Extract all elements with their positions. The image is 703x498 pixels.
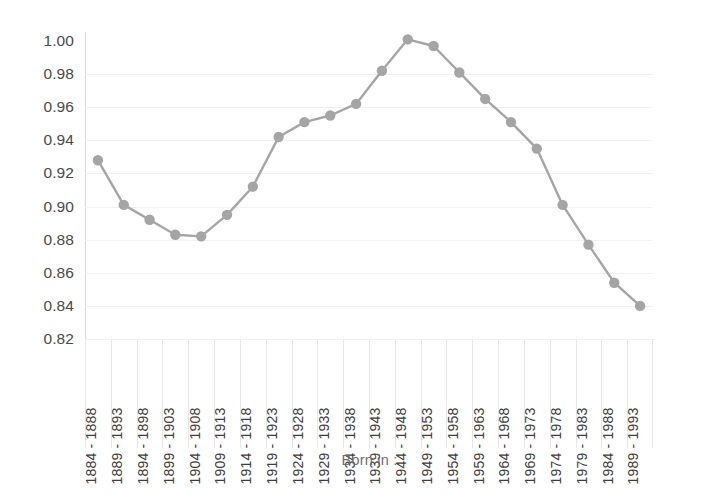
x-axis-tick-label: 1964 - 1968 bbox=[497, 408, 511, 485]
x-axis-category: 1924 - 1928 bbox=[292, 340, 318, 448]
x-axis-category: 1949 - 1953 bbox=[421, 340, 447, 448]
data-point-marker: 1959 - 1963: 0.965 bbox=[480, 94, 490, 104]
x-axis-tick-label: 1894 - 1898 bbox=[136, 408, 150, 485]
x-axis-title: Born in : bbox=[85, 452, 654, 468]
y-axis-tick-label: 0.88 bbox=[22, 232, 74, 248]
data-point-marker: 1894 - 1898: 0.892 bbox=[144, 215, 154, 225]
data-point-marker: 1964 - 1968: 0.951 bbox=[506, 117, 516, 127]
x-axis-tick-label: 1889 - 1893 bbox=[110, 408, 124, 485]
plot-area: 1884 - 1888: 0.9281889 - 1893: 0.9011894… bbox=[85, 41, 653, 339]
x-axis-tick-label: 1904 - 1908 bbox=[188, 408, 202, 485]
x-axis-tick-label: 1974 - 1978 bbox=[549, 408, 563, 485]
data-point-marker: 1944 - 1948: 1.001 bbox=[403, 34, 413, 44]
x-axis-category: 1979 - 1983 bbox=[576, 340, 602, 448]
y-axis-tick-label: 0.84 bbox=[22, 298, 74, 314]
y-axis-tick-label: 0.82 bbox=[22, 331, 74, 347]
data-point-marker: 1884 - 1888: 0.928 bbox=[93, 155, 103, 165]
x-axis-tick-label: 1934 - 1938 bbox=[343, 408, 357, 485]
x-axis-category: 1944 - 1948 bbox=[395, 340, 421, 448]
y-axis-tick-label: 0.98 bbox=[22, 66, 74, 82]
x-axis-category: 1934 - 1938 bbox=[343, 340, 369, 448]
x-axis-category: 1989 - 1993 bbox=[627, 340, 653, 448]
x-axis-category: 1954 - 1958 bbox=[446, 340, 472, 448]
x-axis-tick-label: 1929 - 1933 bbox=[317, 408, 331, 485]
x-axis-tick-label: 1984 - 1988 bbox=[601, 408, 615, 485]
data-point-marker: 1929 - 1933: 0.955 bbox=[325, 110, 335, 120]
data-point-marker: 1984 - 1988: 0.854 bbox=[609, 278, 619, 288]
x-axis-category: 1969 - 1973 bbox=[524, 340, 550, 448]
x-axis-category: 1904 - 1908 bbox=[188, 340, 214, 448]
y-axis-tick-label: 0.86 bbox=[22, 265, 74, 281]
x-axis-category: 1909 - 1913 bbox=[214, 340, 240, 448]
y-axis-tick-label: 0.92 bbox=[22, 166, 74, 182]
y-axis-tick-label: 0.90 bbox=[22, 199, 74, 215]
x-axis-category: 1889 - 1893 bbox=[111, 340, 137, 448]
x-axis-tick-label: 1939 - 1943 bbox=[368, 408, 382, 485]
x-axis-tick-label: 1909 - 1913 bbox=[213, 408, 227, 485]
data-point-marker: 1904 - 1908: 0.882 bbox=[196, 231, 206, 241]
x-axis-tick-labels: 1884 - 18881889 - 18931894 - 18981899 - … bbox=[85, 340, 654, 448]
x-axis-category: 1919 - 1923 bbox=[266, 340, 292, 448]
y-axis-tick-label: 0.96 bbox=[22, 99, 74, 115]
data-point-marker: 1949 - 1953: 0.997 bbox=[428, 41, 438, 51]
y-axis-tick-label: 0.94 bbox=[22, 133, 74, 149]
data-point-marker: 1969 - 1973: 0.935 bbox=[532, 143, 542, 153]
data-series-survival-rate: 1884 - 1888: 0.9281889 - 1893: 0.9011894… bbox=[85, 41, 653, 339]
data-point-marker: 1989 - 1993: 0.84 bbox=[635, 301, 645, 311]
x-axis-tick-label: 1954 - 1958 bbox=[446, 408, 460, 485]
x-axis-tick-label: 1979 - 1983 bbox=[575, 408, 589, 485]
x-axis-tick-label: 1944 - 1948 bbox=[394, 408, 408, 485]
x-axis-category: 1964 - 1968 bbox=[498, 340, 524, 448]
x-axis-tick-label: 1924 - 1928 bbox=[291, 408, 305, 485]
x-axis-tick-label: 1884 - 1888 bbox=[84, 408, 98, 485]
x-axis-category: 1974 - 1978 bbox=[550, 340, 576, 448]
x-axis-category: 1939 - 1943 bbox=[369, 340, 395, 448]
y-axis-tick-labels: 1.000.980.960.940.920.900.880.860.840.82 bbox=[22, 0, 74, 498]
data-point-marker: 1889 - 1893: 0.901 bbox=[119, 200, 129, 210]
x-axis-category: 1884 - 1888 bbox=[85, 340, 111, 448]
data-point-marker: 1979 - 1983: 0.877 bbox=[583, 239, 593, 249]
x-axis-category: 1894 - 1898 bbox=[137, 340, 163, 448]
x-axis-category: 1929 - 1933 bbox=[317, 340, 343, 448]
x-axis-category: 1914 - 1918 bbox=[240, 340, 266, 448]
data-point-marker: 1899 - 1903: 0.883 bbox=[170, 230, 180, 240]
x-axis-category: 1899 - 1903 bbox=[162, 340, 188, 448]
y-axis-tick-label: 1.00 bbox=[22, 33, 74, 49]
x-axis-category: 1984 - 1988 bbox=[601, 340, 627, 448]
x-axis-tick-label: 1914 - 1918 bbox=[239, 408, 253, 485]
x-axis-tick-label: 1989 - 1993 bbox=[626, 408, 640, 485]
data-point-marker: 1924 - 1928: 0.951 bbox=[299, 117, 309, 127]
data-point-marker: 1909 - 1913: 0.895 bbox=[222, 210, 232, 220]
x-axis-tick-label: 1919 - 1923 bbox=[265, 408, 279, 485]
x-axis-tick-label: 1949 - 1953 bbox=[420, 408, 434, 485]
x-axis-category: 1959 - 1963 bbox=[472, 340, 498, 448]
data-point-marker: 1954 - 1958: 0.981 bbox=[454, 67, 464, 77]
series-line bbox=[98, 39, 640, 306]
data-point-marker: 1914 - 1918: 0.912 bbox=[248, 181, 258, 191]
x-axis-tick-label: 1969 - 1973 bbox=[523, 408, 537, 485]
x-axis-tick-label: 1959 - 1963 bbox=[472, 408, 486, 485]
data-point-marker: 1919 - 1923: 0.942 bbox=[273, 132, 283, 142]
data-point-marker: 1934 - 1938: 0.962 bbox=[351, 99, 361, 109]
x-axis-tick-label: 1899 - 1903 bbox=[162, 408, 176, 485]
data-point-marker: 1939 - 1943: 0.982 bbox=[377, 66, 387, 76]
data-point-marker: 1974 - 1978: 0.901 bbox=[557, 200, 567, 210]
line-chart: 1.000.980.960.940.920.900.880.860.840.82… bbox=[0, 0, 703, 498]
